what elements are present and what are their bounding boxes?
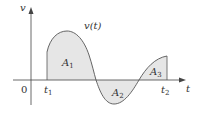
t-axis-arrow-icon <box>179 78 186 83</box>
v-axis-arrow-icon <box>29 7 34 14</box>
tick-t1-label: t1 <box>44 84 53 97</box>
t-axis-label: t <box>186 83 191 94</box>
tick-t2-label: t2 <box>161 84 170 97</box>
velocity-area-diagram: v t 0 v(t) t1 t2 A1 A2 A3 <box>0 0 200 115</box>
v-axis-label: v <box>20 2 26 13</box>
curve-label: v(t) <box>84 20 102 31</box>
origin-label: 0 <box>21 84 27 95</box>
region-a1-fill <box>47 31 96 80</box>
